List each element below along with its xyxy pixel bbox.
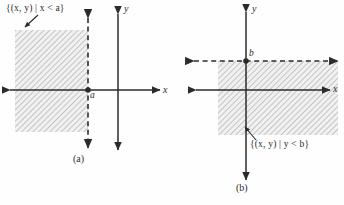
panel-a: {(x, y) | x < a} y x a (a) [0,0,172,205]
x-axis-label-a: x [163,84,167,95]
set-builder-label-b: {(x, y) | y < b} [250,139,309,149]
shaded-region-b [218,61,338,135]
panel-b: y x b {(x, y) | y < b} (b) [172,0,344,205]
boundary-point-label-a: a [90,90,95,100]
boundary-point-b [243,58,249,64]
y-axis-label-a: y [124,3,128,14]
figure-container: {(x, y) | x < a} y x a (a) [0,0,344,205]
panel-b-caption: (b) [236,182,248,193]
panel-b-graphic [172,0,344,205]
x-axis-label-b: x [333,83,337,94]
set-builder-label-a: {(x, y) | x < a} [6,3,65,13]
leader-line-a [25,15,38,27]
panel-a-caption: (a) [73,153,84,164]
panel-a-graphic [0,0,172,205]
shaded-region-a [15,30,88,132]
y-axis-label-b: y [252,3,256,14]
boundary-point-label-b: b [249,48,254,58]
